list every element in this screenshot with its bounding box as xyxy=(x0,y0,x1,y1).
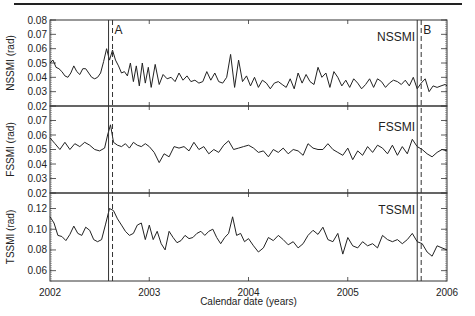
panel-title: TSSMI xyxy=(378,203,415,217)
panel-nssmi: 0.080.070.060.050.040.030.02NSSMINSSMI (… xyxy=(5,15,447,112)
x-tick-label: 2002 xyxy=(39,287,62,298)
y-tick-label: 0.06 xyxy=(28,130,48,141)
panel-title: NSSMI xyxy=(377,30,415,44)
y-tick-label: 0.12 xyxy=(28,203,48,214)
marker-label-b: B xyxy=(423,23,431,37)
y-tick-label: 0.03 xyxy=(28,173,48,184)
y-axis-label: FSSMI (rad) xyxy=(5,122,16,176)
y-tick-label: 0.02 xyxy=(28,188,48,199)
y-tick-label: 0.04 xyxy=(28,72,48,83)
panel-tssmi: 0.120.100.080.06TSSMITSSMI (rad) xyxy=(5,193,447,281)
stacked-line-chart: 0.080.070.060.050.040.030.02NSSMINSSMI (… xyxy=(0,0,475,316)
y-tick-label: 0.08 xyxy=(28,244,48,255)
panel-fssmi: 0.070.060.050.040.030.02FSSMIFSSMI (rad) xyxy=(5,106,447,199)
x-axis-label: Calendar date (years) xyxy=(200,296,297,307)
series-line-nssmi xyxy=(50,49,447,92)
y-tick-label: 0.08 xyxy=(28,15,48,26)
y-axis-label: TSSMI (rad) xyxy=(5,210,16,264)
y-tick-label: 0.07 xyxy=(28,115,48,126)
y-tick-label: 0.05 xyxy=(28,144,48,155)
y-tick-label: 0.03 xyxy=(28,86,48,97)
panel-title: FSSMI xyxy=(378,120,415,134)
x-tick-label: 2003 xyxy=(138,287,161,298)
x-tick-label: 2006 xyxy=(436,287,459,298)
y-tick-label: 0.04 xyxy=(28,159,48,170)
x-tick-label: 2005 xyxy=(337,287,360,298)
marker-label-a: A xyxy=(115,23,123,37)
y-tick-label: 0.06 xyxy=(28,265,48,276)
y-tick-label: 0.05 xyxy=(28,58,48,69)
y-tick-label: 0.07 xyxy=(28,29,48,40)
y-tick-label: 0.06 xyxy=(28,43,48,54)
y-tick-label: 0.02 xyxy=(28,101,48,112)
y-axis-label: NSSMI (rad) xyxy=(5,35,16,91)
y-tick-label: 0.10 xyxy=(28,224,48,235)
